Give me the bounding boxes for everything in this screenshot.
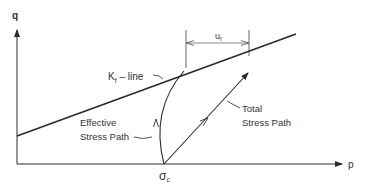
effective-path-leader bbox=[134, 137, 152, 139]
total-path-leader bbox=[227, 101, 240, 108]
total-path-label-line1: Total bbox=[242, 103, 262, 114]
total-path-arrow bbox=[200, 118, 208, 126]
total-path-label-line2: Stress Path bbox=[242, 117, 291, 128]
kf-line-label: Kf – line bbox=[108, 71, 144, 84]
effective-path-label-line1: Effective bbox=[80, 117, 116, 128]
q-axis-label: q bbox=[12, 10, 18, 21]
effective-stress-path bbox=[160, 71, 184, 164]
stress-path-diagram: q p Kf – line uf Effective Stress Path T… bbox=[0, 0, 368, 192]
effective-path-arrow bbox=[154, 119, 159, 127]
effective-path-label-line2: Stress Path bbox=[80, 131, 129, 142]
kf-line-leader bbox=[153, 75, 163, 79]
sigma-c-label: σc bbox=[159, 169, 170, 183]
uf-label: uf bbox=[215, 31, 222, 42]
p-axis-label: p bbox=[348, 159, 354, 170]
